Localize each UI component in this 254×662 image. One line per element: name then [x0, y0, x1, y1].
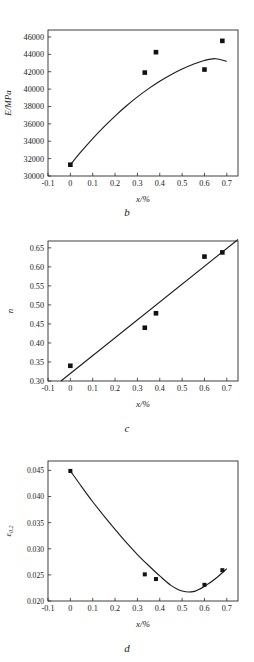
y-tick-label: 0.40	[30, 339, 44, 348]
data-point-marker	[142, 70, 147, 75]
x-tick-label: -0.1	[42, 384, 55, 393]
x-tick-label: 0.1	[88, 179, 98, 188]
y-tick-label: 0.035	[27, 519, 44, 528]
data-point-marker	[154, 50, 159, 55]
x-tick-label: 0.2	[110, 384, 120, 393]
chart-c-svg: 0.300.350.400.450.500.550.600.65-0.100.1…	[0, 226, 254, 422]
chart-panel-c: 0.300.350.400.450.500.550.600.65-0.100.1…	[0, 226, 254, 444]
x-tick-label: 0.3	[132, 384, 142, 393]
plot-area-c: 0.300.350.400.450.500.550.600.65-0.100.1…	[0, 226, 254, 422]
chart-panel-d: 0.0200.0250.0300.0350.0400.045-0.100.10.…	[0, 444, 254, 662]
data-point-marker	[154, 311, 159, 316]
data-point-marker	[202, 583, 206, 587]
x-tick-label: 0	[68, 179, 72, 188]
y-tick-label: 40000	[24, 85, 44, 94]
data-point-marker	[220, 250, 225, 255]
y-axis-title: E/MPa	[3, 90, 13, 117]
y-tick-label: 0.50	[30, 301, 44, 310]
y-tick-label: 0.025	[27, 571, 44, 580]
x-tick-label: 0.4	[155, 179, 165, 188]
fit-curve	[70, 59, 226, 165]
y-tick-label: 0.45	[30, 320, 44, 329]
data-point-marker	[154, 577, 158, 581]
x-axis-title: x/%	[135, 194, 150, 204]
x-tick-label: 0.7	[222, 604, 232, 613]
x-tick-label: 0.6	[199, 604, 209, 613]
data-point-marker	[68, 162, 73, 167]
y-tick-label: 32000	[24, 155, 44, 164]
y-tick-label: 0.60	[30, 263, 44, 272]
y-tick-label: 44000	[24, 50, 44, 59]
y-tick-label: 36000	[24, 120, 44, 129]
panel-caption-b: b	[0, 207, 254, 218]
data-point-marker	[68, 469, 72, 473]
y-tick-label: 0.55	[30, 282, 44, 291]
plot-frame	[48, 461, 238, 601]
y-tick-label: 38000	[24, 102, 44, 111]
x-tick-label: -0.1	[42, 179, 55, 188]
x-tick-label: 0.7	[222, 384, 232, 393]
y-tick-label: 0.65	[30, 244, 44, 253]
chart-d-svg: 0.0200.0250.0300.0350.0400.045-0.100.10.…	[0, 444, 254, 642]
x-axis-title: x/%	[135, 399, 150, 409]
y-axis-title: n	[5, 308, 15, 313]
plot-area-b: 3000032000340003600038000400004200044000…	[0, 0, 254, 205]
x-axis-title: x/%	[135, 619, 150, 629]
y-tick-label: 0.35	[30, 358, 44, 367]
x-tick-label: 0.7	[222, 179, 232, 188]
x-tick-label: 0.3	[132, 179, 142, 188]
y-tick-label: 0.030	[27, 545, 44, 554]
panel-caption-d: d	[0, 643, 254, 654]
x-tick-label: 0.6	[199, 179, 209, 188]
data-point-marker	[68, 363, 73, 368]
y-tick-label: 46000	[24, 33, 44, 42]
y-tick-label: 0.040	[27, 492, 44, 501]
plot-frame	[48, 30, 238, 176]
figure-stack: 3000032000340003600038000400004200044000…	[0, 0, 254, 662]
x-tick-label: 0.2	[110, 179, 120, 188]
chart-b-svg: 3000032000340003600038000400004200044000…	[0, 0, 254, 205]
x-tick-label: 0.5	[177, 384, 187, 393]
data-point-marker	[220, 39, 225, 44]
x-tick-label: 0.3	[132, 604, 142, 613]
x-tick-label: 0.4	[155, 604, 165, 613]
fit-curve	[61, 239, 238, 381]
x-tick-label: 0	[68, 384, 72, 393]
y-axis-title-subscript: 0.2	[8, 525, 14, 533]
data-point-marker	[220, 568, 224, 572]
y-tick-label: 34000	[24, 137, 44, 146]
plot-area-d: 0.0200.0250.0300.0350.0400.045-0.100.10.…	[0, 444, 254, 642]
x-tick-label: 0.1	[88, 604, 98, 613]
panel-caption-c: c	[0, 423, 254, 434]
data-point-marker	[202, 254, 207, 259]
fit-curve	[70, 471, 226, 592]
x-tick-label: 0.5	[177, 604, 187, 613]
x-tick-label: 0.4	[155, 384, 165, 393]
x-tick-label: -0.1	[42, 604, 55, 613]
data-point-marker	[143, 572, 147, 576]
data-point-marker	[142, 325, 147, 330]
x-tick-label: 0	[68, 604, 72, 613]
chart-panel-b: 3000032000340003600038000400004200044000…	[0, 0, 254, 226]
y-axis-title: ε0.2	[3, 525, 14, 536]
x-tick-label: 0.1	[88, 384, 98, 393]
data-point-marker	[202, 67, 207, 72]
x-tick-label: 0.6	[199, 384, 209, 393]
y-tick-label: 42000	[24, 68, 44, 77]
y-tick-label: 0.045	[27, 466, 44, 475]
y-axis-title-group: ε0.2	[3, 525, 14, 536]
x-tick-label: 0.5	[177, 179, 187, 188]
x-tick-label: 0.2	[110, 604, 120, 613]
